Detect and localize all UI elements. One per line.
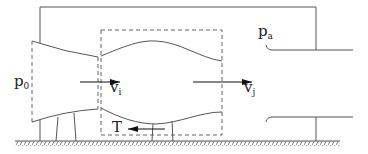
- test-cell-frame: [40, 7, 316, 50]
- label-thrust: T: [112, 120, 122, 135]
- label-pa: pa: [258, 24, 273, 41]
- diagram-canvas: p0 vi vj pa T: [0, 0, 368, 154]
- label-vi: vi: [110, 80, 121, 97]
- diagram-drawing: [0, 0, 368, 154]
- label-p0: p0: [14, 74, 29, 91]
- exhaust-duct: [266, 45, 353, 122]
- label-vj: vj: [244, 80, 255, 97]
- ground: [15, 141, 340, 146]
